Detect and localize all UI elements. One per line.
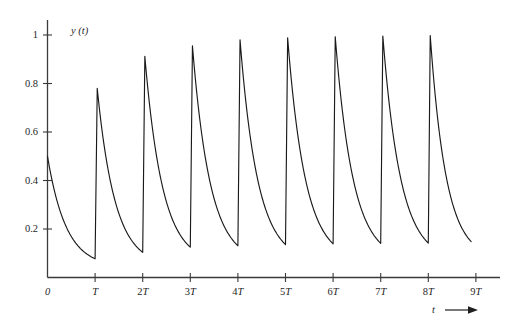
- data-series-y-of-t: [48, 35, 472, 258]
- x-axis-tick-label: 4T: [218, 287, 258, 298]
- y-axis-tick-label: 1: [6, 30, 38, 41]
- x-axis-tick-label: T: [75, 287, 115, 298]
- x-axis-tick-label: 8T: [408, 287, 448, 298]
- y-axis-tick-label: 0.8: [6, 79, 38, 90]
- x-axis-tick-label: 6T: [313, 287, 353, 298]
- x-axis-tick-label: 5T: [266, 287, 306, 298]
- x-axis-tick-label: 7T: [361, 287, 401, 298]
- x-axis-tick-label: 2T: [123, 287, 163, 298]
- y-axis-tick-label: 0.2: [6, 224, 38, 235]
- plot-canvas: [0, 0, 513, 329]
- x-axis-tick-label: 3T: [170, 287, 210, 298]
- x-axis-arrow-icon: [444, 303, 480, 317]
- y-axis-tick-label: 0.4: [6, 176, 38, 187]
- y-axis-tick-label: 0.6: [6, 127, 38, 138]
- x-axis-title: t: [432, 305, 435, 316]
- x-axis-tick-label: 0: [28, 287, 68, 298]
- y-axis-title: y (t): [71, 26, 88, 37]
- x-axis-tick-label: 9T: [456, 287, 496, 298]
- chart-figure: 0.20.40.60.81 0T2T3T4T5T6T7T8T9T y (t) t: [0, 0, 513, 329]
